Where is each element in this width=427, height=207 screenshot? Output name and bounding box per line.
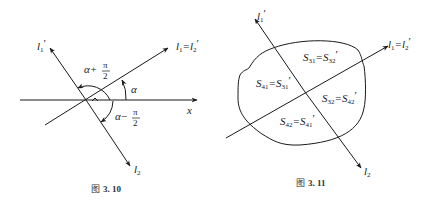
region-label-s32: S32=S42′ [322,89,357,106]
svg-text:π: π [103,60,108,70]
alpha-plus-arc [78,86,110,100]
region-label-s41: S41=S31′ [256,74,291,91]
region-label-s31: S31=S32′ [303,48,338,65]
label-l1-eq-l2-prime: l1=l2′ [388,35,411,52]
svg-text:2: 2 [133,118,138,128]
diagram-canvas: l1′ l1=l2′ x α α+ π 2 α− π 2 l2 图3. 10 l… [0,0,427,207]
alpha-minus-arc [101,101,113,122]
label-l2: l2 [364,165,371,179]
label-l1-eq-l2-prime: l1=l2′ [176,37,199,54]
caption-fig-3-10: 图3. 10 [91,184,122,194]
label-alpha-minus-half-pi: α− π 2 [115,107,140,128]
svg-text:2: 2 [103,71,108,81]
label-l2: l2 [134,163,141,177]
line-l1-prime [50,48,86,100]
svg-text:π: π [133,107,138,117]
svg-text:α−: α− [115,110,128,122]
label-alpha: α [131,83,137,95]
label-l1-prime: l1′ [257,7,266,24]
caption-fig-3-11: 图3. 11 [296,178,326,188]
figure-3-10: l1′ l1=l2′ x α α+ π 2 α− π 2 l2 图3. 10 [20,37,199,194]
label-x-axis: x [186,104,192,116]
figure-3-11: l1′ l1=l2′ l2 S31=S32′ S41=S31′ S32=S42′… [226,7,411,188]
svg-text:α+: α+ [84,63,97,75]
region-label-s42: S42=S41′ [280,112,315,129]
alpha-arc [122,80,126,100]
label-alpha-plus-half-pi: α+ π 2 [84,60,110,81]
label-l1-prime: l1′ [37,37,46,54]
